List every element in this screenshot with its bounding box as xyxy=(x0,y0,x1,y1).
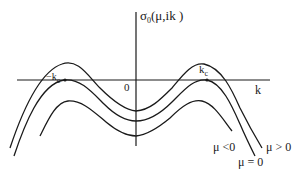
neg-kc-prefix: −k xyxy=(46,71,57,82)
horizontal-axis-label: k xyxy=(255,84,261,96)
neg-kc-sub: c xyxy=(57,76,61,85)
diagram-canvas: σ0(μ,ik ) 0 k −kc kc μ <0 μ > 0 μ = 0 xyxy=(0,0,301,179)
curve-label-mu-positive: μ > 0 xyxy=(266,141,291,153)
pos-kc-point xyxy=(205,78,208,81)
sigma-args: (μ,ik ) xyxy=(151,8,183,23)
neg-kc-point xyxy=(63,78,66,81)
neg-kc-label: −kc xyxy=(46,72,60,82)
pos-kc-label: kc xyxy=(199,64,208,75)
curve-label-mu-negative: μ <0 xyxy=(213,141,235,153)
origin-label: 0 xyxy=(124,82,130,93)
sigma-subscript: 0 xyxy=(147,16,151,25)
sigma-symbol: σ xyxy=(140,8,147,23)
pos-kc-sub: c xyxy=(205,69,209,78)
pos-kc-prefix: k xyxy=(199,63,205,75)
vertical-axis-label: σ0(μ,ik ) xyxy=(140,9,183,22)
curve-label-mu-zero: μ = 0 xyxy=(238,156,263,168)
